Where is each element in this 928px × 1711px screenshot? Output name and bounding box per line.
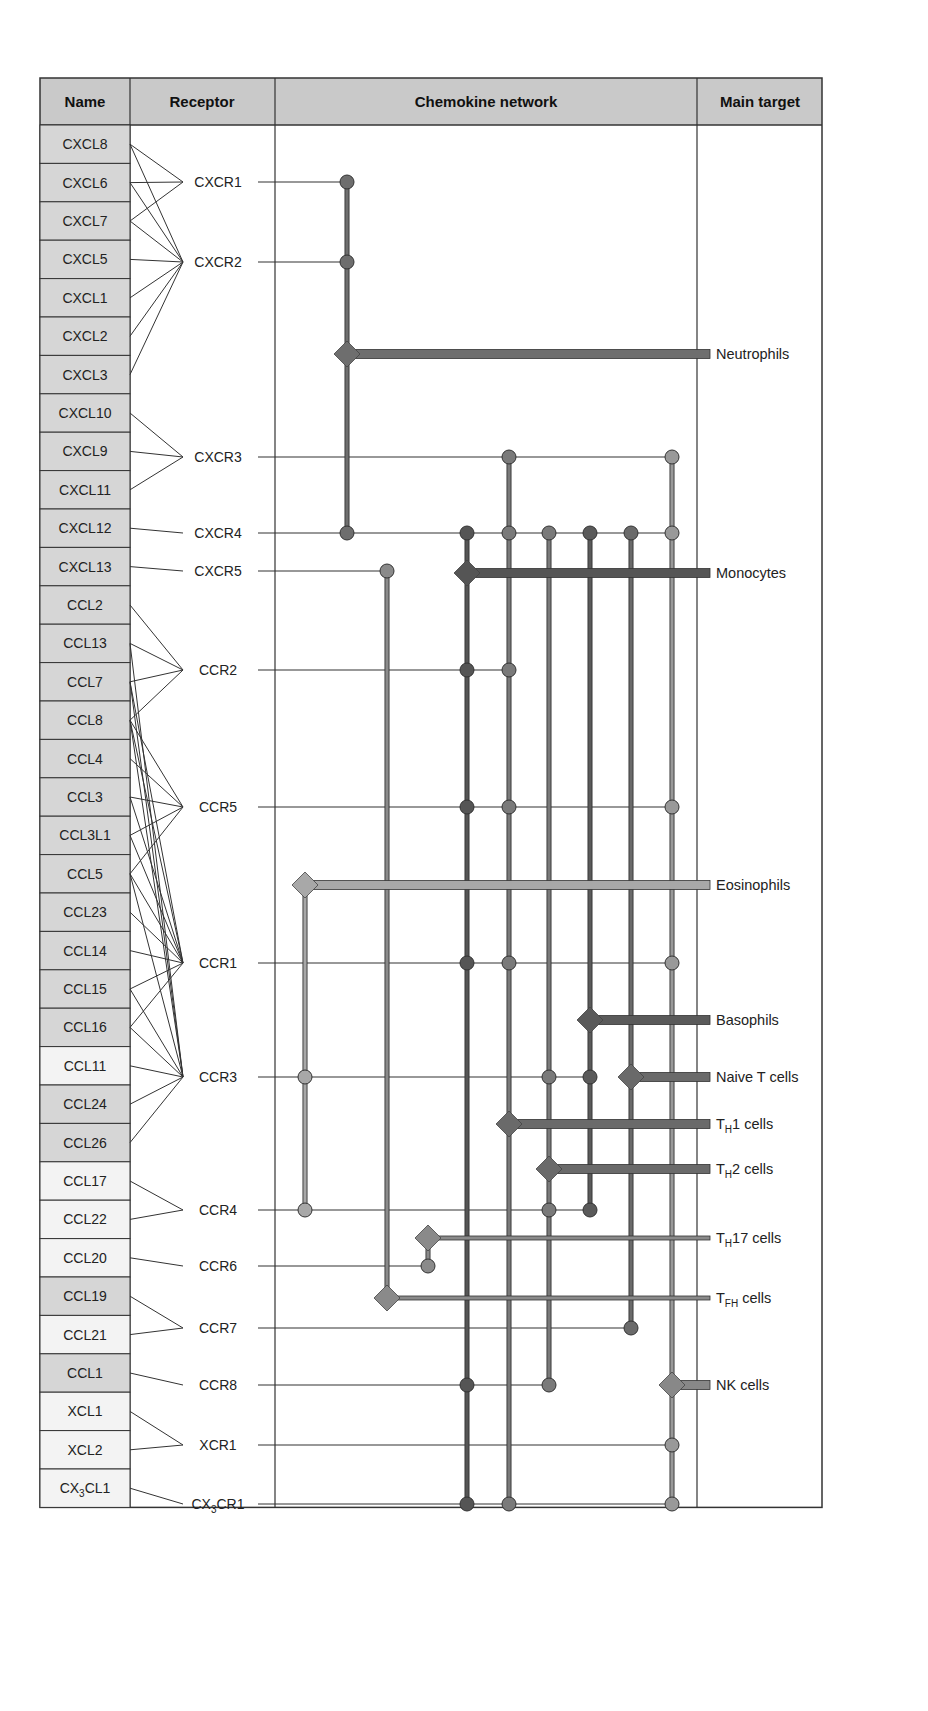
node-dot-icon (542, 1203, 556, 1217)
ligand-link (130, 262, 183, 375)
ligand-link (130, 1296, 183, 1328)
node-dot-icon (624, 526, 638, 540)
table-border (40, 78, 822, 1507)
diamond-icon (618, 1064, 644, 1090)
ligand-link (130, 1077, 183, 1143)
diamond-icon (292, 872, 318, 898)
target-label: Eosinophils (716, 877, 790, 893)
ligand-link (130, 720, 183, 963)
chemokine-label: XCL2 (67, 1442, 102, 1458)
target-tfh-cells: TFH cells (374, 1285, 771, 1311)
chemokine-label: XCL1 (67, 1403, 102, 1419)
chemokine-row: CXCL10 (40, 394, 130, 432)
chemokine-label: CCL23 (63, 904, 107, 920)
network-dots (298, 175, 679, 1511)
chemokine-row: CCL20 (40, 1239, 130, 1277)
ligand-link (130, 451, 183, 457)
chemokine-row: XCL2 (40, 1431, 130, 1469)
chemokine-row: CCL5 (40, 855, 130, 893)
receptor-label: CCR7 (199, 1320, 237, 1336)
chemokine-row: CCL17 (40, 1162, 130, 1200)
chemokine-label: CXCL10 (59, 405, 112, 421)
ligand-link (130, 1258, 183, 1266)
ligand-link (130, 1445, 183, 1450)
chemokine-row: CCL4 (40, 739, 130, 777)
chemokine-label: CCL24 (63, 1096, 107, 1112)
ligand-link (130, 262, 183, 336)
ligand-link (130, 670, 183, 682)
ligand-link (130, 182, 183, 183)
header-network: Chemokine network (415, 93, 558, 110)
table-frame (40, 78, 822, 1507)
node-dot-icon (502, 450, 516, 464)
network-columns (305, 182, 672, 1504)
receptor-label: CCR8 (199, 1377, 237, 1393)
target-label: TH17 cells (716, 1230, 781, 1249)
chemokine-label: CCL3L1 (59, 827, 111, 843)
node-dot-icon (542, 1378, 556, 1392)
chemokine-label: CXCL3 (62, 367, 107, 383)
ligand-receptor-links (130, 144, 183, 1504)
ligand-link (130, 720, 183, 1077)
chemokine-row: CX3CL1 (40, 1469, 130, 1507)
receptor-label: CCR6 (199, 1258, 237, 1274)
target-label: TFH cells (716, 1290, 771, 1309)
ligand-link (130, 144, 183, 262)
node-dot-icon (665, 956, 679, 970)
chemokine-label: CCL26 (63, 1135, 107, 1151)
chemokine-row: CXCL9 (40, 432, 130, 470)
receptor-label: CCR3 (199, 1069, 237, 1085)
ligand-link (130, 457, 183, 490)
target-bar (387, 1296, 710, 1300)
node-dot-icon (421, 1259, 435, 1273)
chemokine-row: CCL11 (40, 1047, 130, 1085)
target-bar (305, 881, 710, 890)
chemokine-label: CCL20 (63, 1250, 107, 1266)
chemokine-label: CCL14 (63, 943, 107, 959)
ligand-link (130, 183, 183, 262)
chemokine-row: CCL8 (40, 701, 130, 739)
ligand-link (130, 951, 183, 963)
ligand-link (130, 259, 183, 262)
header-name: Name (65, 93, 106, 110)
target-bars: NeutrophilsMonocytesEosinophilsBasophils… (292, 341, 798, 1398)
node-dot-icon (502, 800, 516, 814)
chemokine-row: CCL2 (40, 586, 130, 624)
receptor-label: CXCR4 (194, 525, 242, 541)
node-dot-icon (583, 1070, 597, 1084)
target-naive-t-cells: Naive T cells (618, 1064, 798, 1090)
ligand-link (130, 413, 183, 457)
ligand-link (130, 144, 183, 182)
chemokine-network-diagram: CXCL8CXCL6CXCL7CXCL5CXCL1CXCL2CXCL3CXCL1… (0, 0, 928, 1711)
target-bar (590, 1016, 710, 1025)
chemokine-label: CCL1 (67, 1365, 103, 1381)
target-th1-cells: TH1 cells (496, 1111, 773, 1137)
chemokine-label: CCL15 (63, 981, 107, 997)
node-dot-icon (502, 1497, 516, 1511)
node-dot-icon (380, 564, 394, 578)
chemokine-row: CXCL2 (40, 317, 130, 355)
node-dot-icon (460, 956, 474, 970)
receptor-label: CCR1 (199, 955, 237, 971)
chemokine-label: CCL16 (63, 1019, 107, 1035)
target-eosinophils: Eosinophils (292, 872, 790, 898)
chemokine-row: CXCL8 (40, 125, 130, 163)
chemokine-row: CCL16 (40, 1008, 130, 1046)
target-label: Neutrophils (716, 346, 789, 362)
chemokine-row: CCL19 (40, 1277, 130, 1315)
node-dot-icon (340, 175, 354, 189)
chemokine-row: CXCL6 (40, 163, 130, 201)
chemokine-label: CXCL7 (62, 213, 107, 229)
diamond-icon (659, 1372, 685, 1398)
target-monocytes: Monocytes (454, 560, 786, 586)
ligand-link (130, 221, 183, 262)
chemokine-row: CXCL3 (40, 355, 130, 393)
node-dot-icon (340, 526, 354, 540)
ligand-link (130, 643, 183, 1077)
target-neutrophils: Neutrophils (334, 341, 789, 367)
chemokine-label: CXCL11 (59, 482, 111, 498)
diamond-icon (454, 560, 480, 586)
chemokine-row: XCL1 (40, 1392, 130, 1430)
diamond-icon (577, 1007, 603, 1033)
chemokine-label: CCL22 (63, 1211, 107, 1227)
